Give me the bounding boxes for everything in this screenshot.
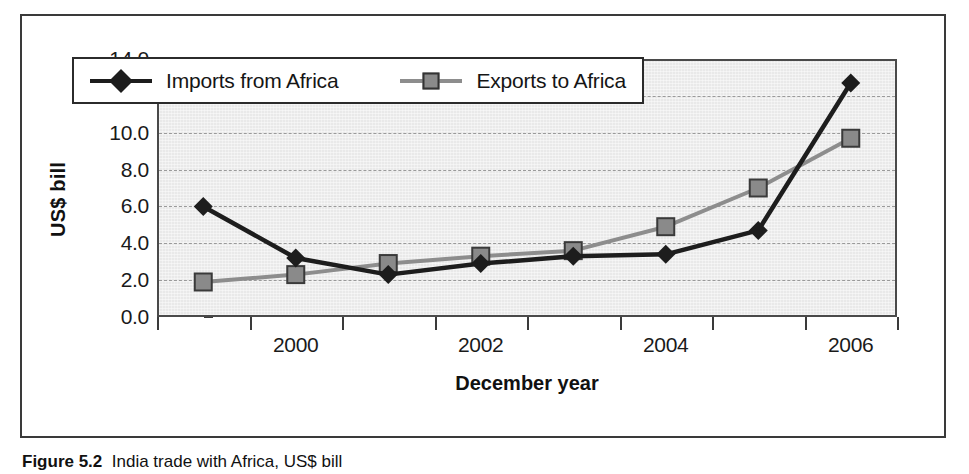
x-axis-tick-mark (157, 317, 159, 330)
data-point-marker-square (195, 273, 212, 290)
legend-entry-exports: Exports to Africa (400, 69, 626, 93)
diamond-marker-icon (109, 68, 133, 92)
data-point-marker-square (842, 130, 859, 147)
figure-caption: Figure 5.2 India trade with Africa, US$ … (22, 452, 342, 472)
data-point-marker-square (657, 218, 674, 235)
x-axis-tick-label: 2000 (273, 333, 319, 357)
x-axis-tick-mark (250, 317, 252, 330)
x-axis-tick-mark (435, 317, 437, 330)
data-point-marker-diamond (194, 197, 213, 216)
x-axis-tick-mark (712, 317, 714, 330)
x-axis-tick-label: 2006 (828, 333, 874, 357)
data-point-marker-diamond (656, 245, 675, 264)
x-axis-title: December year (157, 372, 897, 395)
x-axis-tick-mark (527, 317, 529, 330)
chart-legend: Imports from Africa Exports to Africa (72, 57, 644, 104)
figure-caption-text: India trade with Africa, US$ bill (112, 452, 343, 471)
data-point-marker-square (287, 266, 304, 283)
legend-swatch-imports (90, 70, 152, 92)
square-marker-icon (423, 72, 440, 89)
data-point-marker-square (750, 180, 767, 197)
legend-label-imports: Imports from Africa (166, 69, 338, 93)
x-axis-tick-mark (620, 317, 622, 330)
legend-entry-imports: Imports from Africa (90, 69, 338, 93)
figure-caption-label: Figure 5.2 (22, 452, 102, 471)
data-point-marker-diamond (286, 249, 305, 268)
legend-label-exports: Exports to Africa (476, 69, 626, 93)
x-axis-tick-mark (342, 317, 344, 330)
chart-area: US$ bill 0.02.04.06.08.010.012.014.0 200… (22, 16, 944, 436)
x-axis-tick-mark (805, 317, 807, 330)
legend-swatch-exports (400, 70, 462, 92)
x-axis-tick-label: 2004 (643, 333, 689, 357)
figure-frame: US$ bill 0.02.04.06.08.010.012.014.0 200… (20, 14, 946, 438)
x-axis-tick-mark (897, 317, 899, 330)
x-axis-tick-label: 2002 (458, 333, 504, 357)
